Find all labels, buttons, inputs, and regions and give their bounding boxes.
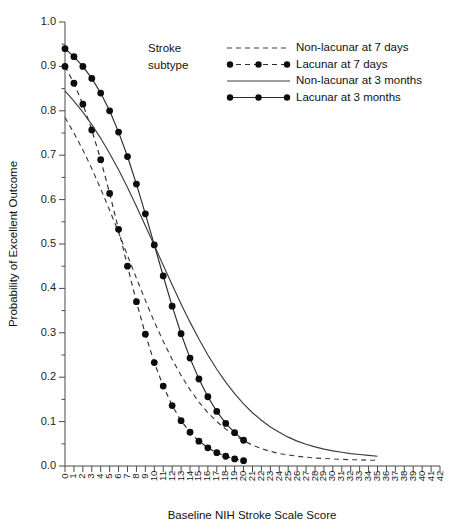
series-marker-1 — [178, 417, 185, 424]
series-marker-1 — [213, 449, 220, 456]
legend-label-3: Lacunar at 3 months — [296, 91, 401, 103]
series-marker-1 — [196, 438, 203, 445]
series-marker-1 — [169, 402, 176, 409]
series-marker-3 — [231, 429, 238, 436]
series-marker-3 — [79, 63, 86, 70]
series-line-0 — [65, 117, 378, 460]
y-tick-label: 0.7 — [41, 148, 56, 160]
series-marker-3 — [196, 376, 203, 383]
series-marker-3 — [71, 53, 78, 60]
legend-marker-3 — [227, 94, 233, 100]
legend-label-0: Non-lacunar at 7 days — [296, 41, 409, 53]
series-marker-3 — [187, 355, 194, 362]
series-marker-3 — [124, 153, 131, 160]
series-marker-1 — [79, 101, 86, 108]
legend-marker-1 — [255, 61, 261, 67]
stroke-outcome-line-chart: 0.00.10.20.30.40.50.60.70.80.91.0 012345… — [0, 0, 466, 530]
y-tick-label: 0.0 — [41, 459, 56, 471]
y-tick-label: 0.1 — [41, 415, 56, 427]
data-curves — [62, 45, 378, 464]
legend-marker-3 — [255, 94, 261, 100]
y-tick-label: 0.2 — [41, 370, 56, 382]
series-marker-1 — [160, 383, 167, 390]
series-marker-3 — [222, 420, 229, 427]
y-tick-label: 0.6 — [41, 193, 56, 205]
series-marker-3 — [169, 303, 176, 310]
series-marker-3 — [106, 107, 113, 114]
legend-label-1: Lacunar at 7 days — [296, 58, 388, 70]
y-tick-label: 0.8 — [41, 104, 56, 116]
series-marker-3 — [133, 181, 140, 188]
figure-container: 0.00.10.20.30.40.50.60.70.80.91.0 012345… — [0, 0, 466, 530]
series-marker-1 — [142, 331, 149, 338]
series-marker-3 — [62, 45, 69, 52]
series-marker-1 — [71, 80, 78, 87]
y-tick-label: 0.3 — [41, 326, 56, 338]
y-axis: 0.00.10.20.30.40.50.60.70.80.91.0 — [41, 15, 65, 471]
series-marker-1 — [97, 156, 104, 163]
y-axis-title: Probability of Excellent Outcome — [7, 161, 19, 327]
series-marker-3 — [115, 129, 122, 136]
series-marker-3 — [151, 241, 158, 248]
series-marker-3 — [97, 90, 104, 97]
legend-marker-1 — [227, 61, 233, 67]
legend-title-line2: subtype — [148, 59, 188, 71]
y-tick-label: 0.5 — [41, 237, 56, 249]
legend-label-2: Non-lacunar at 3 months — [296, 74, 422, 86]
x-tick-label: 42 — [434, 471, 445, 482]
y-tick-label: 1.0 — [41, 15, 56, 27]
series-marker-3 — [160, 273, 167, 280]
legend-marker-3 — [284, 94, 290, 100]
series-marker-1 — [106, 190, 113, 197]
series-line-2 — [65, 91, 378, 456]
series-marker-1 — [240, 457, 247, 464]
series-marker-3 — [240, 437, 247, 444]
x-axis: 0123456789101112131415161718192021222324… — [59, 466, 445, 481]
series-marker-1 — [204, 444, 211, 451]
series-marker-3 — [204, 393, 211, 400]
y-tick-label: 0.9 — [41, 59, 56, 71]
series-marker-1 — [115, 226, 122, 233]
chart-legend: StrokesubtypeNon-lacunar at 7 daysLacuna… — [148, 41, 422, 103]
series-marker-3 — [142, 210, 149, 217]
series-marker-1 — [151, 359, 158, 366]
series-marker-3 — [88, 75, 95, 82]
series-marker-1 — [222, 453, 229, 460]
series-marker-3 — [213, 408, 220, 415]
series-marker-3 — [178, 330, 185, 337]
y-tick-label: 0.4 — [41, 281, 56, 293]
series-marker-1 — [231, 456, 238, 463]
x-axis-title: Baseline NIH Stroke Scale Score — [168, 509, 337, 521]
series-marker-1 — [187, 429, 194, 436]
series-marker-1 — [124, 263, 131, 270]
legend-title-line1: Stroke — [148, 42, 181, 54]
legend-marker-1 — [284, 61, 290, 67]
series-marker-1 — [62, 63, 69, 70]
series-marker-1 — [133, 298, 140, 305]
